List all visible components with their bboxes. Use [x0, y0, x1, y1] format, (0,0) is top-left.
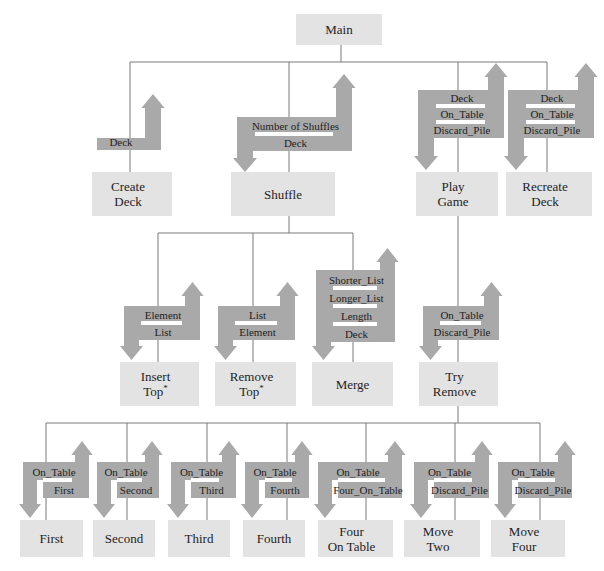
module-move-four[interactable]: MoveFour: [491, 520, 565, 557]
module-four-on-table[interactable]: FourOn Table: [318, 520, 393, 557]
row-separator: [333, 304, 377, 308]
param-label: On_Table: [180, 466, 223, 478]
param-label: Deck: [284, 137, 308, 149]
param-arrow-second: On_TableSecond: [93, 441, 163, 518]
up-arrow-head: [332, 74, 355, 88]
up-arrow-shaft: [145, 455, 159, 463]
up-arrow-shaft: [222, 455, 236, 463]
param-arrow-four-on-table: On_TableFour_On_Table: [314, 441, 406, 518]
param-label: Deck: [450, 92, 474, 104]
parameter-arrows: DeckNumber of ShufflesDeckDeckOn_TableDi…: [19, 63, 598, 518]
param-label: List: [249, 309, 266, 321]
param-label: Fourth: [270, 484, 300, 496]
module-label: Merge: [336, 377, 370, 392]
row-separator: [191, 478, 219, 482]
param-arrow-move-two: On_TableDiscard_Pile: [410, 441, 493, 518]
module-main[interactable]: Main: [296, 14, 382, 45]
up-arrow-head: [376, 248, 398, 262]
param-arrow-play-game: DeckOn_TableDiscard_Pile: [414, 63, 508, 170]
module-label: Second: [105, 531, 144, 546]
up-arrow-head: [218, 441, 239, 455]
down-arrow-shaft: [237, 150, 253, 158]
module-recreate-deck[interactable]: RecreateDeck: [506, 172, 592, 216]
module-label: Try: [445, 369, 464, 384]
up-arrow-head: [276, 282, 298, 296]
param-arrow-fourth: On_TableFourth: [241, 441, 313, 518]
down-arrow-head: [410, 504, 432, 518]
module-try-remove[interactable]: TryRemove: [419, 362, 498, 406]
param-label: On_Table: [530, 108, 573, 120]
module-label: Remove: [433, 384, 477, 399]
param-label: On_Table: [511, 466, 554, 478]
up-arrow-head: [71, 441, 92, 455]
down-arrow-shaft: [318, 479, 332, 504]
up-arrow-head: [480, 282, 502, 296]
down-arrow-head: [214, 346, 237, 360]
param-arrow-first: On_TableFirst: [19, 441, 93, 518]
module-merge[interactable]: Merge: [312, 362, 393, 406]
up-arrow-head: [141, 94, 164, 108]
module-second[interactable]: Second: [93, 520, 155, 557]
param-label: On_Table: [253, 466, 296, 478]
row-separator: [255, 132, 333, 136]
down-arrow-shaft: [498, 479, 512, 504]
module-label: Create: [111, 179, 145, 194]
module-label: Deck: [531, 194, 559, 209]
up-arrow-shaft: [280, 296, 295, 307]
module-insert-top[interactable]: InsertTop*: [120, 362, 199, 406]
param-label: On_Table: [32, 466, 75, 478]
up-arrow-shaft: [484, 296, 499, 307]
down-arrow-shaft: [23, 479, 37, 504]
down-arrow-head: [120, 346, 143, 360]
module-label: Four: [512, 539, 537, 554]
down-arrow-shaft: [171, 479, 185, 504]
param-arrow-third: On_TableThird: [167, 441, 240, 518]
row-separator: [141, 321, 182, 325]
module-create-deck[interactable]: CreateDeck: [92, 172, 172, 216]
param-label: Element: [145, 309, 182, 321]
module-label: Remove: [230, 369, 274, 384]
module-label: Insert: [141, 369, 171, 384]
up-arrow-head: [141, 441, 162, 455]
up-arrow-shaft: [388, 455, 402, 463]
module-label: Main: [325, 22, 353, 37]
module-fourth[interactable]: Fourth: [243, 520, 305, 557]
param-label: List: [154, 326, 171, 338]
up-arrow-shaft: [558, 455, 572, 463]
down-arrow-head: [19, 504, 41, 518]
param-label: Discard_Pile: [524, 124, 581, 136]
down-arrow-head: [414, 156, 438, 170]
up-arrow-shaft: [488, 77, 504, 91]
param-label: Four_On_Table: [333, 484, 403, 496]
superscript-star: *: [259, 383, 264, 393]
down-arrow-head: [167, 504, 189, 518]
param-label: On_Table: [336, 466, 379, 478]
structure-chart: DeckNumber of ShufflesDeckDeckOn_TableDi…: [0, 0, 604, 571]
param-label: On_Table: [440, 108, 483, 120]
module-shuffle[interactable]: Shuffle: [231, 172, 335, 216]
param-arrow-insert-top: ElementList: [120, 282, 204, 360]
module-first[interactable]: First: [20, 520, 83, 557]
module-third[interactable]: Third: [168, 520, 230, 557]
module-move-two[interactable]: MoveTwo: [404, 520, 480, 557]
down-arrow-head: [312, 346, 335, 360]
param-label: On_Table: [104, 466, 147, 478]
up-arrow-shaft: [75, 455, 89, 463]
module-play-game[interactable]: PlayGame: [416, 172, 498, 216]
up-arrow-head: [574, 63, 597, 77]
up-arrow-shaft: [578, 77, 594, 91]
down-arrow-head: [314, 504, 336, 518]
module-label: Game: [437, 194, 468, 209]
param-arrow-recreate-deck: DeckOn_TableDiscard_Pile: [504, 63, 598, 170]
row-separator: [117, 478, 142, 482]
param-label: Second: [120, 484, 153, 496]
row-separator: [235, 321, 277, 325]
up-arrow-shaft: [145, 108, 161, 150]
down-arrow-shaft: [245, 479, 259, 504]
module-remove-top[interactable]: RemoveTop*: [215, 362, 296, 406]
down-arrow-shaft: [97, 479, 111, 504]
superscript-star: *: [163, 383, 168, 393]
row-separator: [333, 286, 377, 290]
row-separator: [434, 478, 472, 482]
module-label: On Table: [328, 539, 376, 554]
